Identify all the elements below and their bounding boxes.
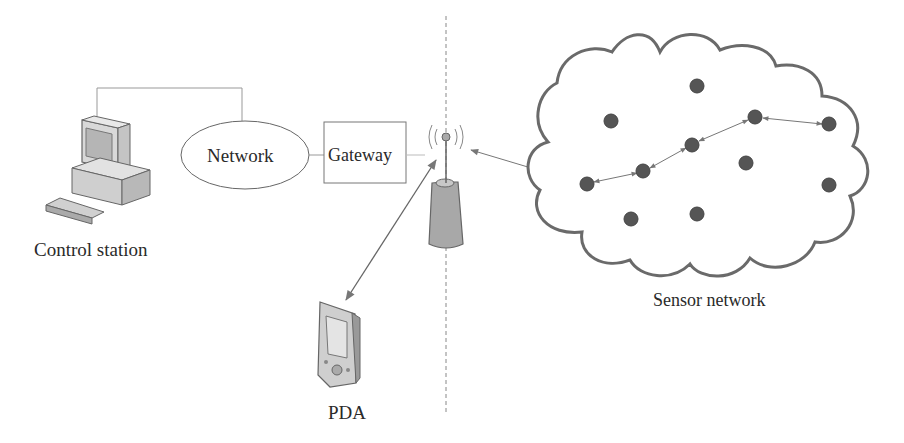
sensor-node[interactable] — [690, 207, 704, 221]
sensor-network-label: Sensor network — [653, 290, 765, 311]
sensor-node[interactable] — [636, 164, 650, 178]
gateway-label: Gateway — [328, 145, 392, 166]
network-diagram — [0, 0, 904, 443]
control-network-connector — [97, 88, 242, 121]
sensor-cloud — [528, 34, 868, 276]
sensor-node[interactable] — [690, 79, 704, 93]
sensor-node[interactable] — [748, 110, 762, 124]
sensor-node[interactable] — [739, 156, 753, 170]
antenna-tower-icon[interactable] — [429, 125, 463, 248]
desktop-computer-icon[interactable] — [46, 116, 150, 224]
pda-icon[interactable] — [318, 302, 360, 387]
control-station-label: Control station — [34, 239, 147, 261]
pda-label: PDA — [328, 402, 366, 424]
sensor-node[interactable] — [624, 212, 638, 226]
network-label: Network — [207, 145, 273, 167]
sensor-node[interactable] — [685, 138, 699, 152]
sensor-node[interactable] — [604, 114, 618, 128]
sensor-node[interactable] — [822, 117, 836, 131]
sensor-node[interactable] — [580, 177, 594, 191]
sensor-node[interactable] — [822, 178, 836, 192]
